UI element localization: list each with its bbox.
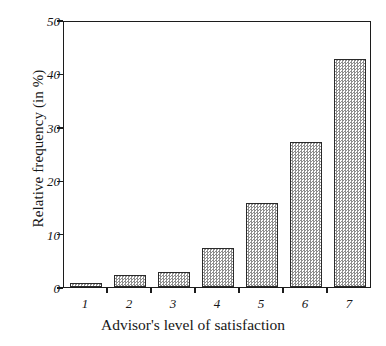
y-axis-tick-label: 40 [0,67,60,81]
bar [202,248,234,287]
y-axis-tick-label: 20 [0,174,60,188]
x-axis-tick-label: 4 [202,296,232,312]
x-axis-tick-mark [238,288,239,293]
x-axis-tick-label: 5 [246,296,276,312]
y-axis-tick-label: 30 [0,121,60,135]
bar [290,142,322,287]
x-axis-tick-mark [194,288,195,293]
bar [70,283,102,287]
y-axis-tick-label: 0 [0,281,60,295]
x-axis-tick-label: 6 [290,296,320,312]
x-axis-tick-label: 3 [158,296,188,312]
x-axis-tick-label: 7 [334,296,364,312]
x-axis-tick-mark [326,288,327,293]
chart-figure: Relative frequency (in %) 01020304050 12… [0,0,386,346]
x-axis-tick-mark [150,288,151,293]
plot-area [63,21,371,288]
x-axis-tick-mark [106,288,107,293]
x-axis-tick-mark [282,288,283,293]
y-axis-tick-label: 10 [0,228,60,242]
x-axis-tick-label: 1 [70,296,100,312]
bar [158,272,190,287]
y-axis-tick-label: 50 [0,14,60,28]
bar [114,275,146,287]
x-axis-tick-label: 2 [114,296,144,312]
x-axis-title: Advisor's level of satisfaction [0,316,386,334]
bar [246,203,278,287]
bar [334,59,366,287]
